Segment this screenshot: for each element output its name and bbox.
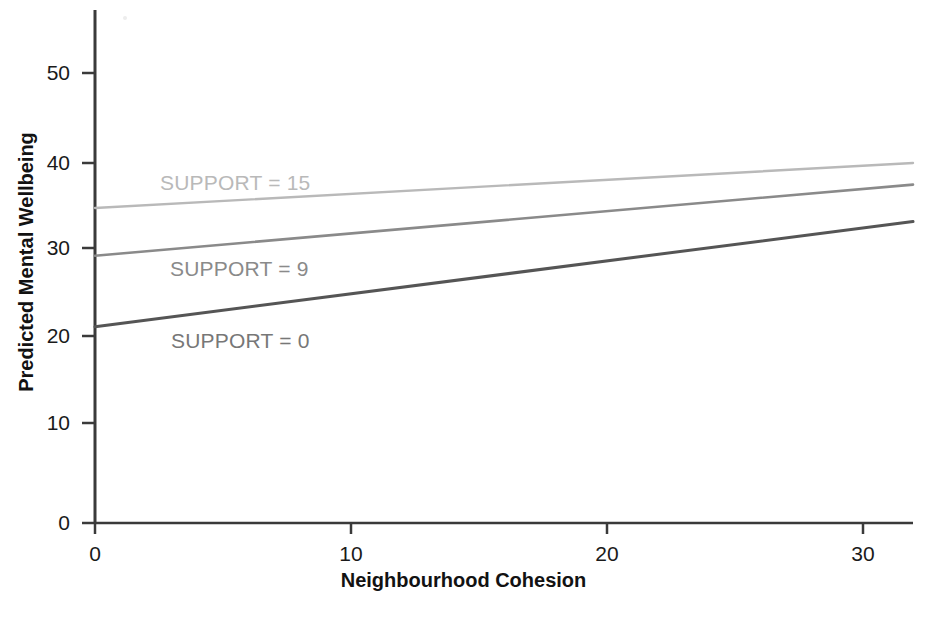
x-tick-label-0: 0 <box>65 543 125 564</box>
line-chart-plot <box>0 0 927 623</box>
chart-figure: 50 40 30 20 10 0 0 10 20 30 Neighbourhoo… <box>0 0 927 623</box>
y-axis-title-wrapper: Predicted Mental Wellbeing <box>0 0 52 523</box>
x-axis-ticks <box>95 523 863 534</box>
y-axis-title: Predicted Mental Wellbeing <box>16 132 36 392</box>
series-annotation-support-0: SUPPORT = 0 <box>171 330 310 351</box>
series-line-support-9 <box>95 185 913 256</box>
x-tick-label-10: 10 <box>321 543 381 564</box>
y-axis-ticks <box>82 73 95 523</box>
series-annotation-support-9: SUPPORT = 9 <box>170 258 309 279</box>
x-axis-title: Neighbourhood Cohesion <box>0 570 927 590</box>
x-tick-label-20: 20 <box>577 543 637 564</box>
series-annotation-support-15: SUPPORT = 15 <box>160 172 310 193</box>
x-tick-label-30: 30 <box>833 543 893 564</box>
